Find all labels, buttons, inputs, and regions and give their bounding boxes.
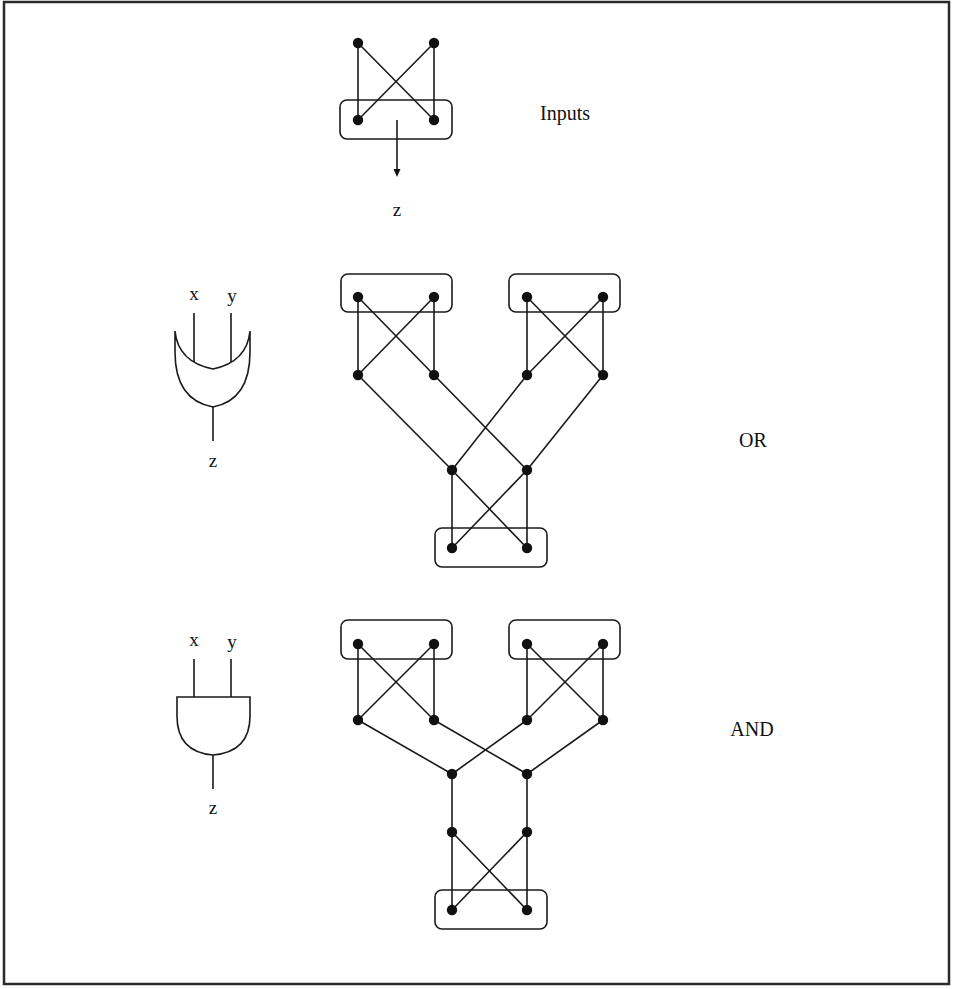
- or-node: [522, 370, 532, 380]
- and-node: [598, 639, 608, 649]
- or-edge: [452, 375, 527, 470]
- and-edge: [434, 720, 527, 774]
- and-node: [353, 715, 363, 725]
- inputs-node: [429, 115, 439, 125]
- inputs-label: Inputs: [540, 102, 590, 125]
- or-graph: [341, 274, 620, 567]
- and-node: [522, 715, 532, 725]
- diagram-svg: [0, 0, 954, 989]
- and-gate-y-label: y: [227, 631, 237, 653]
- or-node: [353, 292, 363, 302]
- and-node: [522, 639, 532, 649]
- or-gate-z-label: z: [209, 450, 217, 472]
- and-graph: [341, 620, 620, 929]
- or-gate-body: [175, 331, 250, 407]
- inputs-node: [353, 38, 363, 48]
- and-node: [353, 639, 363, 649]
- and-node: [429, 639, 439, 649]
- or-node: [598, 370, 608, 380]
- and-node: [598, 715, 608, 725]
- and-node: [447, 827, 457, 837]
- and-gate-z-label: z: [209, 797, 217, 819]
- and-node: [522, 905, 532, 915]
- and-node: [522, 827, 532, 837]
- or-node: [522, 465, 532, 475]
- arrow-down-icon: [394, 169, 401, 177]
- or-node: [447, 465, 457, 475]
- or-gate-x-label: x: [189, 283, 199, 305]
- and-gate-icon: [177, 659, 250, 789]
- and-node: [447, 905, 457, 915]
- or-node: [522, 543, 532, 553]
- inputs-graph: [340, 38, 452, 177]
- or-label: OR: [739, 429, 767, 452]
- or-node: [353, 370, 363, 380]
- or-node: [522, 292, 532, 302]
- and-edge: [527, 720, 603, 774]
- or-edge: [358, 375, 452, 470]
- or-gate-y-label: y: [227, 285, 237, 307]
- or-node: [447, 543, 457, 553]
- inputs-node: [429, 38, 439, 48]
- or-edge: [527, 375, 603, 470]
- or-node: [429, 292, 439, 302]
- and-node: [429, 715, 439, 725]
- or-node: [598, 292, 608, 302]
- and-gate-body: [177, 697, 250, 755]
- and-edge: [358, 720, 452, 774]
- and-label: AND: [730, 718, 773, 741]
- inputs-output-z-label: z: [393, 199, 401, 221]
- or-edge: [434, 375, 527, 470]
- inputs-node: [353, 115, 363, 125]
- and-gate-x-label: x: [189, 629, 199, 651]
- or-node: [429, 370, 439, 380]
- and-edge: [452, 720, 527, 774]
- and-node: [522, 769, 532, 779]
- or-gate-icon: [175, 313, 250, 441]
- and-node: [447, 769, 457, 779]
- diagram-canvas: Inputs z x y z OR x y z AND: [0, 0, 954, 989]
- figure-frame: [4, 2, 949, 984]
